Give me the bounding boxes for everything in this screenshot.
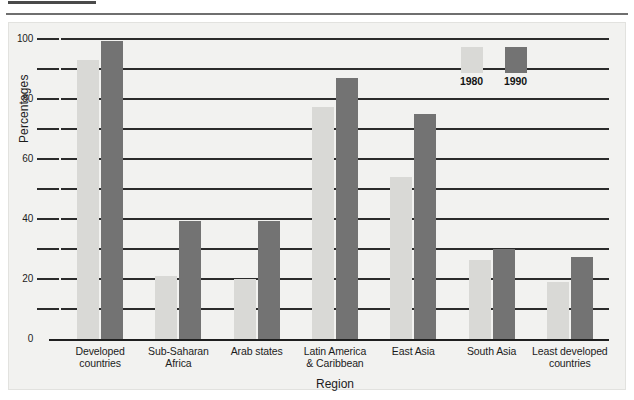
bar-1980: [155, 276, 177, 339]
bar-group: [234, 39, 280, 339]
y-tick-mark: [37, 38, 59, 40]
y-tick-mark: [37, 278, 59, 280]
bar-1980: [547, 282, 569, 339]
bar-1990: [258, 221, 280, 340]
legend-label-1980: 1980: [460, 75, 483, 87]
bar-1990: [414, 114, 436, 339]
y-tick-label: 80: [22, 93, 33, 104]
bar-1980: [312, 107, 334, 340]
y-tick-mark: [37, 188, 59, 190]
bar-1990: [493, 249, 515, 339]
chart-legend: 1980 1990: [461, 47, 581, 95]
bar-1980: [469, 260, 491, 340]
chart-figure: Percentages 020406080100 Developed count…: [8, 22, 626, 390]
y-axis-title: Percentages: [17, 75, 31, 143]
y-tick-label: 40: [22, 213, 33, 224]
y-tick-label: 0: [28, 333, 33, 344]
x-tick-label: Least developed countries: [523, 345, 617, 369]
bar-1990: [179, 221, 201, 340]
x-axis-title: Region: [61, 377, 609, 391]
bar-1990: [101, 41, 123, 340]
y-tick-mark: [37, 218, 59, 220]
bar-group: [155, 39, 201, 339]
y-tick-label: 60: [22, 153, 33, 164]
plot-area: 020406080100 Developed countriesSub-Saha…: [61, 39, 609, 339]
y-tick-mark: [37, 68, 59, 70]
bar-1980: [234, 279, 256, 339]
legend-swatch-1980: [461, 47, 483, 73]
y-tick-mark: [37, 128, 59, 130]
y-tick-label: 100: [17, 33, 33, 44]
bar-group: [312, 39, 358, 339]
page-rule-long: [6, 13, 628, 15]
y-tick-mark: [37, 248, 59, 250]
bar-1990: [336, 78, 358, 339]
legend-label-1990: 1990: [504, 75, 527, 87]
bar-group: [390, 39, 436, 339]
bar-1980: [77, 60, 99, 339]
legend-swatch-1990: [505, 47, 527, 73]
bar-group: [77, 39, 123, 339]
page-rule-short: [8, 1, 96, 4]
y-tick-label: 20: [22, 273, 33, 284]
scanned-page-rules: [0, 0, 634, 20]
y-tick-mark: [37, 308, 59, 310]
bar-1980: [390, 177, 412, 339]
bar-1990: [571, 257, 593, 340]
y-tick-mark: [37, 158, 59, 160]
x-axis-line: [49, 339, 609, 341]
y-tick-mark: [37, 98, 59, 100]
